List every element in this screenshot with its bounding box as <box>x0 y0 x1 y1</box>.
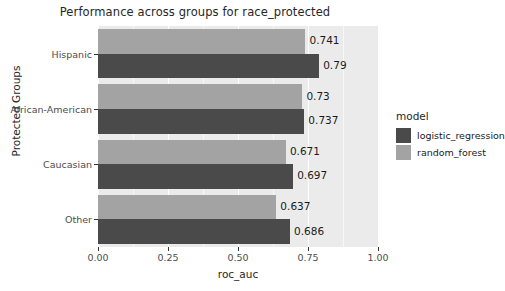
legend: model logistic_regressionrandom_forest <box>396 110 501 161</box>
x-tick-mark <box>308 247 309 251</box>
legend-swatch <box>396 145 411 160</box>
bar <box>98 109 304 134</box>
bar-value-label: 0.637 <box>280 200 310 212</box>
bar <box>98 54 319 79</box>
legend-rows: logistic_regressionrandom_forest <box>396 127 501 161</box>
bar <box>98 84 302 109</box>
y-tick-label: African-American <box>0 103 92 114</box>
x-axis-title: roc_auc <box>98 268 378 280</box>
bar <box>98 29 305 54</box>
x-tick-label: 0.75 <box>297 252 318 263</box>
bar-value-label: 0.697 <box>297 169 327 181</box>
y-tick-mark <box>94 109 98 110</box>
legend-item[interactable]: random_forest <box>396 144 501 161</box>
bar-value-label: 0.737 <box>308 114 338 126</box>
x-tick-label: 0.50 <box>227 252 248 263</box>
y-tick-mark <box>94 219 98 220</box>
x-tick-mark <box>378 247 379 251</box>
legend-title: model <box>396 110 501 122</box>
legend-swatch <box>396 128 411 143</box>
bar-value-label: 0.73 <box>306 90 329 102</box>
bar-value-label: 0.671 <box>290 145 320 157</box>
bar <box>98 164 293 189</box>
x-tick-label: 0.25 <box>157 252 178 263</box>
x-tick-label: 0.00 <box>87 252 108 263</box>
bar-value-label: 0.79 <box>323 59 346 71</box>
y-tick-label: Hispanic <box>0 48 92 59</box>
y-tick-label: Other <box>0 214 92 225</box>
x-tick-mark <box>98 247 99 251</box>
x-tick-mark <box>238 247 239 251</box>
bar <box>98 219 290 244</box>
legend-item[interactable]: logistic_regression <box>396 127 501 144</box>
chart-title: Performance across groups for race_prote… <box>0 5 390 19</box>
bar <box>98 195 276 220</box>
x-tick-mark <box>168 247 169 251</box>
bar-value-label: 0.741 <box>309 34 339 46</box>
x-tick-label: 1.00 <box>367 252 388 263</box>
y-tick-mark <box>94 164 98 165</box>
bar <box>98 140 286 165</box>
y-tick-mark <box>94 54 98 55</box>
bar-value-label: 0.686 <box>294 225 324 237</box>
legend-label: logistic_regression <box>417 130 505 141</box>
legend-label: random_forest <box>417 147 486 158</box>
y-tick-label: Caucasian <box>0 159 92 170</box>
